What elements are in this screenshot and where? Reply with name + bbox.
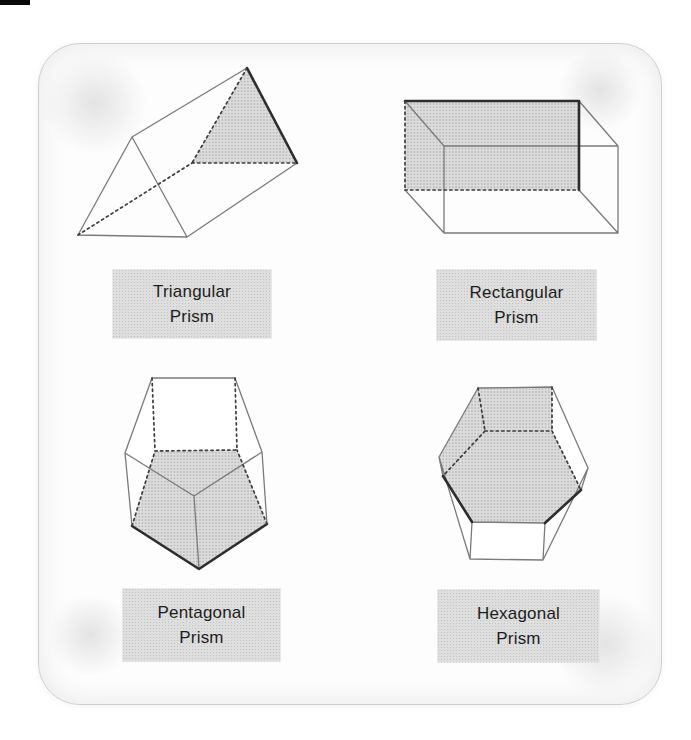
rectangular-prism-label-line1: Rectangular — [470, 280, 564, 305]
hexagonal-prism-label-line1: Hexagonal — [477, 601, 560, 626]
rectangular-prism-figure — [405, 101, 618, 233]
pentagonal-prism-label-line2: Prism — [179, 625, 223, 650]
triangular-prism-shaded-face — [192, 68, 297, 163]
triangular-prism-label-line1: Triangular — [153, 279, 231, 304]
rectangular-prism-label-line2: Prism — [494, 305, 538, 330]
pentagonal-prism-figure — [125, 378, 267, 569]
hexagonal-prism-label-line2: Prism — [496, 626, 540, 651]
hexagonal-prism-label: Hexagonal Prism — [437, 589, 600, 663]
pentagonal-prism-shaded-face — [132, 450, 267, 569]
pentagonal-prism-label: Pentagonal Prism — [122, 588, 281, 662]
rectangular-prism-label: Rectangular Prism — [436, 269, 597, 341]
pentagonal-prism-label-line1: Pentagonal — [157, 600, 245, 625]
page-root: { "figure": { "prisms": [ {"id": "triang… — [0, 0, 691, 740]
hexagonal-prism-figure — [439, 387, 588, 560]
triangular-prism-label-line2: Prism — [170, 304, 214, 329]
triangular-prism-label: Triangular Prism — [112, 269, 272, 339]
triangular-prism-figure — [78, 68, 297, 237]
